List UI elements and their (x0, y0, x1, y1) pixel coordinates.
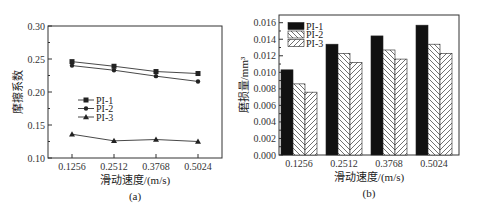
legend-label: PI-3 (306, 38, 323, 49)
triangle-marker (153, 137, 159, 142)
y-axis-label: 磨损量/mm³ (237, 56, 250, 113)
bar-pi-2 (383, 50, 395, 155)
y-tick-label: 0.10 (28, 153, 46, 164)
bar-pi-3 (395, 59, 407, 155)
x-axis-label: 滑动速度/(m/s) (334, 170, 405, 184)
x-tick-label: 0.1256 (58, 161, 86, 172)
y-tick-label: 0.20 (28, 87, 46, 98)
y-tick-label: 0.15 (28, 120, 46, 131)
series-pi-2 (70, 63, 200, 83)
panel-label: (b) (363, 187, 376, 200)
y-tick-label: 0.006 (254, 100, 277, 111)
triangle-marker (69, 131, 75, 136)
friction-coefficient-chart: 0.100.150.200.250.300.12560.25120.37680.… (11, 21, 222, 204)
y-tick-label: 0.010 (254, 67, 277, 78)
y-tick-label: 0.30 (28, 21, 46, 32)
bar-pi-3 (440, 53, 452, 155)
circle-marker (112, 68, 116, 72)
square-marker (196, 71, 201, 76)
legend: PI-1PI-2PI-3 (288, 21, 323, 49)
bar-pi-1 (326, 44, 338, 155)
x-tick-label: 0.3768 (375, 158, 403, 169)
y-tick-label: 0.008 (254, 83, 277, 94)
square-marker (154, 69, 159, 74)
x-tick-label: 0.2512 (330, 158, 358, 169)
bar-pi-1 (281, 70, 293, 155)
figure: 0.100.150.200.250.300.12560.25120.37680.… (0, 0, 477, 207)
x-tick-label: 0.1256 (285, 158, 313, 169)
bar-pi-3 (350, 62, 362, 155)
y-tick-label: 0.002 (254, 133, 277, 144)
square-marker (70, 59, 75, 64)
plot-frame (48, 26, 222, 158)
circle-marker (84, 106, 88, 110)
y-tick-label: 0.004 (254, 116, 277, 127)
circle-marker (70, 63, 74, 67)
y-tick-label: 0.014 (254, 34, 277, 45)
y-tick-label: 0.25 (28, 54, 46, 65)
y-tick-label: 0.016 (254, 17, 277, 28)
bar-pi-1 (416, 25, 428, 155)
panel-label: (a) (129, 190, 142, 203)
bar-pi-2 (338, 53, 350, 155)
x-tick-label: 0.5024 (420, 158, 448, 169)
bar-pi-2 (293, 84, 305, 155)
x-tick-label: 0.3768 (142, 161, 170, 172)
wear-volume-chart: 0.0000.0020.0040.0060.0080.0100.0120.014… (237, 15, 459, 200)
series-pi-3 (69, 131, 201, 143)
y-axis-label: 摩擦系数 (11, 70, 24, 114)
x-axis-label: 滑动速度/(m/s) (100, 173, 171, 187)
legend-label: PI-3 (96, 112, 113, 123)
circle-marker (154, 74, 158, 78)
bar-pi-2 (428, 44, 440, 155)
x-tick-label: 0.5024 (184, 161, 212, 172)
y-tick-label: 0.000 (254, 150, 277, 161)
bar-pi-3 (305, 92, 317, 155)
legend: PI-1PI-2PI-3 (78, 95, 113, 123)
bar-pi-1 (371, 36, 383, 155)
square-marker (84, 98, 89, 103)
y-tick-label: 0.012 (254, 50, 277, 61)
circle-marker (196, 79, 200, 83)
x-tick-label: 0.2512 (100, 161, 128, 172)
square-marker (112, 64, 117, 69)
